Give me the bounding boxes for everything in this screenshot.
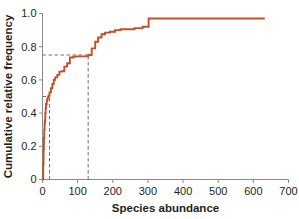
x-tick-label: 500 [209,185,227,197]
x-tick-label: 100 [68,185,86,197]
y-tick-label: 1.0 [21,7,36,19]
chart-figure: 00.20.40.60.81.00100200300400500600700Sp… [0,0,299,219]
y-tick-label: 0.6 [21,74,36,86]
y-tick-label: 0 [30,173,36,185]
axis-lines [43,14,289,180]
x-tick-label: 400 [174,185,192,197]
x-tick-label: 300 [139,185,157,197]
y-tick-label: 0.8 [21,41,36,53]
x-axis-title: Species abundance [112,202,219,214]
ecdf-series-0 [43,18,264,180]
x-tick-label: 600 [244,185,262,197]
x-tick-label: 0 [39,185,45,197]
ecdf-chart: 00.20.40.60.81.00100200300400500600700Sp… [0,0,299,219]
y-axis-title: Cumulative relative frequency [2,14,14,178]
x-tick-label: 200 [104,185,122,197]
y-tick-label: 0.4 [21,107,36,119]
y-tick-label: 0.2 [21,140,36,152]
x-tick-label: 700 [279,185,297,197]
